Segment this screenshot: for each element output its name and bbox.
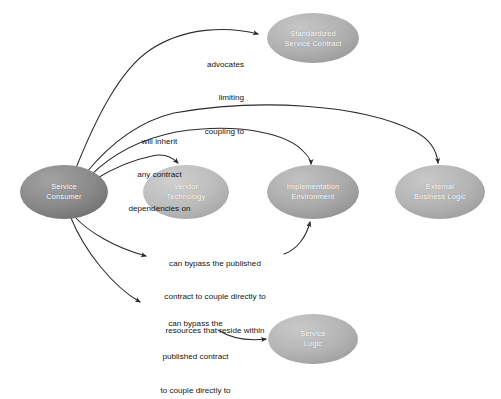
node-standardized-service-contract[interactable]: [267, 13, 359, 63]
edge-label-line-2: published contract: [139, 351, 252, 362]
node-service-consumer[interactable]: [20, 165, 108, 219]
edge-label-line-2: limiting: [146, 92, 244, 103]
node-external-business-logic[interactable]: [395, 165, 485, 219]
edge-label-line-1: will inherit: [107, 136, 212, 147]
edge-label-line-2: any contract: [107, 169, 212, 180]
edge-label-line-1: can bypass the published: [147, 258, 283, 269]
edge-label-line-3: dependencies on: [107, 203, 212, 214]
edge-label-will-inherit-any-contract-dependencies-on: will inherit any contract dependencies o…: [107, 114, 212, 236]
edge-label-line-3: to couple directly to: [139, 385, 252, 396]
edge-label-line-1: advocates: [146, 59, 244, 70]
edge-label-line-1: can bypass the: [139, 318, 252, 329]
node-implementation-environment[interactable]: [267, 165, 359, 219]
edge-label-can-bypass-published-contract-couple-directly: can bypass the published contract to cou…: [139, 296, 252, 399]
edge-bypass-continuation: [284, 222, 310, 254]
